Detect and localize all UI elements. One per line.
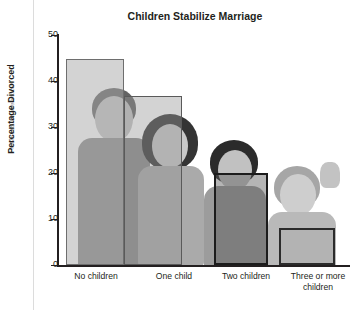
y-axis-line: [57, 34, 59, 267]
y-axis-label: Percentage Divorced: [6, 34, 16, 184]
y-tick-label-30: 30: [18, 121, 58, 131]
bar-three-or-more-children: [279, 228, 335, 265]
x-tick-label-no-children: No children: [58, 271, 134, 282]
chart-title: Children Stabilize Marriage: [45, 10, 345, 22]
y-tick-label-50: 50: [18, 29, 58, 39]
x-axis-line: [57, 265, 350, 267]
y-tick-label-0: 0: [18, 259, 58, 269]
x-tick-label-three-or-more-children: Three or more children: [284, 271, 352, 293]
x-tick-label-two-children: Two children: [208, 271, 284, 282]
y-tick-label-10: 10: [18, 213, 58, 223]
y-tick-label-20: 20: [18, 167, 58, 177]
y-tick-label-40: 40: [18, 75, 58, 85]
bar-no-children: [66, 59, 124, 265]
plot-area: [58, 36, 350, 265]
bar-one-child: [124, 96, 182, 266]
bar-two-children: [214, 173, 268, 265]
figure-container: © MaszS/Shutterstock Children Stabilize …: [0, 0, 354, 310]
x-tick-label-one-child: One child: [140, 271, 208, 282]
